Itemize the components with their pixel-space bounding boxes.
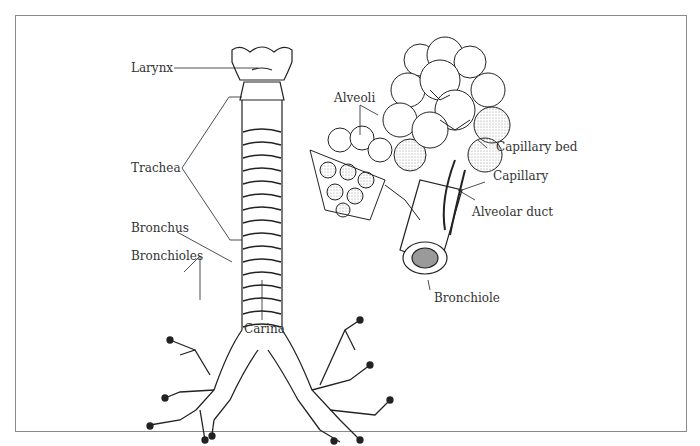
label-carina: Carina: [244, 323, 285, 335]
respiratory-tract-illustration: [0, 0, 700, 446]
alveolar-duct-shape: [400, 160, 465, 274]
alveoli-cluster-large: [383, 37, 510, 172]
left-bronchial-tree: [147, 330, 258, 443]
label-bronchioles: Bronchioles: [131, 250, 203, 262]
right-bronchial-tree: [268, 317, 393, 444]
label-alveolar-duct: Alveolar duct: [472, 206, 553, 218]
label-alveoli: Alveoli: [334, 92, 375, 104]
label-trachea: Trachea: [131, 162, 181, 174]
label-larynx: Larynx: [131, 62, 173, 74]
label-capillary-bed: Capillary bed: [496, 141, 577, 153]
label-capillary: Capillary: [493, 170, 548, 182]
label-bronchiole: Bronchiole: [434, 292, 500, 304]
label-bronchus: Bronchus: [131, 222, 189, 234]
larynx-shape: [232, 47, 292, 100]
